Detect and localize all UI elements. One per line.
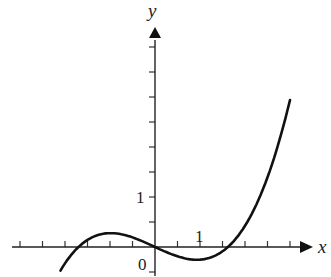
origin-label: 0 <box>138 255 147 274</box>
y-axis-ticks <box>149 47 155 272</box>
x-tick-label-1: 1 <box>195 227 204 246</box>
y-tick-label-1: 1 <box>136 188 145 207</box>
x-axis-arrow-icon <box>300 241 313 253</box>
function-curve <box>61 100 291 271</box>
y-axis-arrow-icon <box>149 27 161 38</box>
y-axis-label: y <box>146 0 157 21</box>
x-axis-label: x <box>317 236 327 257</box>
cubic-function-graph: x y 0 1 1 <box>0 0 331 277</box>
